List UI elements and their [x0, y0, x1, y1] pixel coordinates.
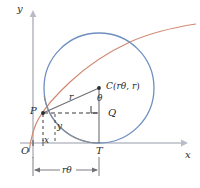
- point-label-c-name: C(: [106, 81, 116, 91]
- point-label-p: P: [30, 106, 37, 116]
- point-label-c-close: ): [136, 81, 140, 91]
- x-axis-label: x: [185, 150, 191, 160]
- y-axis-label: y: [17, 4, 23, 14]
- point-label-q: Q: [108, 108, 116, 118]
- circle-lower-arc: [44, 96, 99, 143]
- y-axis: [30, 10, 37, 158]
- point-label-c: C(rθ, r): [106, 82, 140, 91]
- y-offset-label: y: [57, 122, 62, 131]
- point-label-c-x: rθ: [116, 81, 126, 91]
- dimension-label-theta: θ: [66, 165, 71, 175]
- radius-label: r: [69, 93, 73, 102]
- dimension-label-rtheta: rθ: [62, 166, 72, 175]
- angle-label-theta: θ: [97, 94, 102, 103]
- x-offset-label: x: [44, 136, 49, 145]
- point-marker-P: [41, 111, 45, 115]
- point-marker-C: [97, 86, 101, 90]
- origin-label: O: [21, 146, 29, 156]
- right-angle-mark: [91, 106, 98, 113]
- point-label-t: T: [96, 146, 103, 156]
- cycloid-diagram: y x O P T Q C(rθ, r) r θ x y rθ: [0, 0, 200, 188]
